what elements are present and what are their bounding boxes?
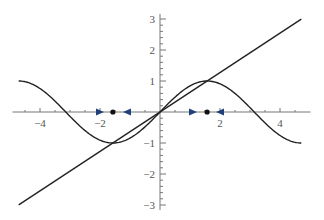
y-tick-label: −2 [143,168,155,180]
x-tick-label: 2 [217,117,223,129]
y-tick-label: 3 [150,13,156,25]
x-tick-label: −2 [94,117,106,129]
phase-plot: −4−224−3−2−1123 [0,0,324,220]
flow-arrow-left-icon [123,109,131,116]
fixed-point-dot [205,109,210,114]
y-tick-label: 2 [150,44,156,56]
y-tick-label: −1 [143,137,155,149]
x-tick-label: 4 [277,117,283,129]
y-tick-label: 1 [150,75,156,87]
fixed-point-dot [110,109,115,114]
y-tick-label: −3 [143,199,155,211]
x-tick-label: −4 [34,117,46,129]
flow-arrow-right-icon [189,109,197,116]
